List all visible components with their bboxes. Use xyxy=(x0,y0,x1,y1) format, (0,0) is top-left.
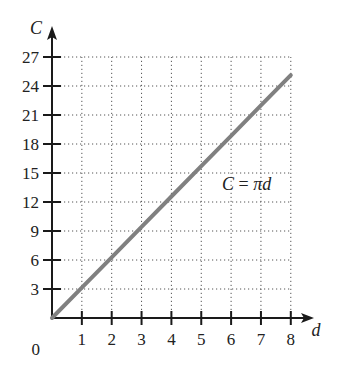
y-tick-label: 21 xyxy=(22,106,39,125)
chart: 12345678 369121518212427 0 C d C = πd xyxy=(0,0,347,377)
x-tick-label: 8 xyxy=(287,330,296,349)
x-tick-label: 1 xyxy=(78,330,87,349)
axes xyxy=(47,26,314,323)
x-tick-label: 4 xyxy=(167,330,176,349)
y-tick-label: 27 xyxy=(22,48,40,67)
y-tick-label: 6 xyxy=(31,251,40,270)
equation-pi-d: πd xyxy=(253,174,272,194)
x-tick-label: 3 xyxy=(137,330,146,349)
x-tick-label: 6 xyxy=(227,330,236,349)
x-tick-label: 7 xyxy=(257,330,266,349)
y-tick-label: 15 xyxy=(22,164,39,183)
x-tick-label: 5 xyxy=(197,330,206,349)
y-tick-labels: 369121518212427 xyxy=(22,48,40,299)
x-tick-labels: 12345678 xyxy=(78,330,295,349)
equation-equals: = xyxy=(234,174,253,194)
y-tick-label: 3 xyxy=(31,280,40,299)
equation-annotation: C = πd xyxy=(222,174,272,194)
y-axis-label: C xyxy=(30,18,43,38)
origin-label: 0 xyxy=(32,340,41,359)
y-tick-label: 18 xyxy=(22,135,39,154)
y-tick-label: 12 xyxy=(22,193,39,212)
x-axis-label: d xyxy=(312,320,322,340)
x-tick-label: 2 xyxy=(107,330,116,349)
y-tick-label: 24 xyxy=(22,77,40,96)
y-tick-label: 9 xyxy=(31,222,40,241)
